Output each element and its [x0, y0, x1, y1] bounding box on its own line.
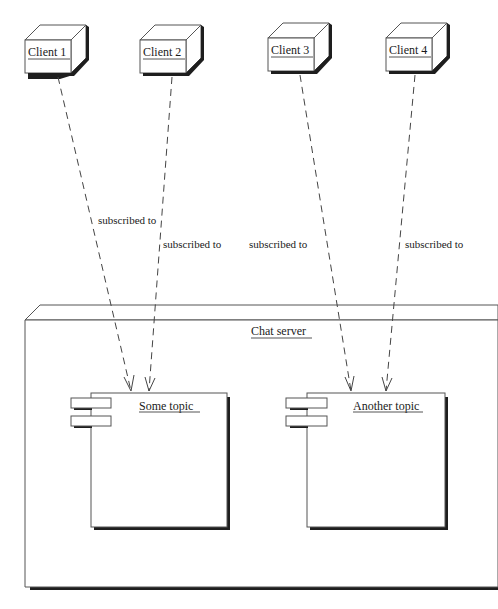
component-tab-icon	[286, 416, 327, 426]
client-label: Client 4	[389, 43, 427, 57]
edge-label: subscribed to	[98, 214, 157, 226]
component-some-topic[interactable]: Some topic	[71, 393, 230, 530]
component-tab-icon	[71, 398, 111, 408]
deployment-diagram: Chat server Some topic Another topic Cli…	[0, 0, 498, 609]
edge-label: subscribed to	[249, 238, 308, 250]
component-body	[91, 393, 227, 527]
client-label: Client 3	[271, 43, 309, 57]
client-node-4[interactable]: Client 4	[386, 23, 447, 71]
component-body	[307, 393, 445, 527]
client-label: Client 1	[28, 45, 66, 59]
edge-label: subscribed to	[405, 238, 464, 250]
server-label: Chat server	[251, 324, 306, 338]
component-tab-icon	[71, 416, 111, 426]
edge-label: subscribed to	[163, 238, 222, 250]
server-top-face	[25, 305, 498, 320]
component-label: Some topic	[139, 399, 193, 413]
client-node-2[interactable]: Client 2	[140, 25, 201, 73]
client-node-3[interactable]: Client 3	[268, 23, 329, 71]
component-tab-icon	[286, 398, 327, 408]
component-another-topic[interactable]: Another topic	[286, 393, 448, 530]
component-label: Another topic	[353, 399, 419, 413]
client-label: Client 2	[143, 45, 181, 59]
